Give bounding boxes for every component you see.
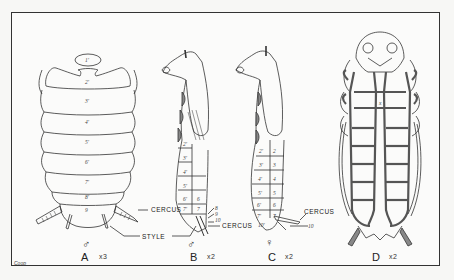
svg-text:1': 1' [85,57,90,63]
svg-text:10: 10 [215,217,221,223]
svg-text:6': 6' [85,159,90,165]
figure-letter-d: D [372,251,380,263]
label-cercus-b: CERCUS [222,222,252,229]
figure-d-drawing: x [339,32,421,246]
figure-scale-a: x3 [99,253,107,260]
figure-scale-d: x2 [389,253,397,260]
svg-text:5': 5' [258,190,263,196]
male-symbol-b: ♂ [187,238,195,250]
svg-text:6: 6 [197,196,200,202]
svg-text:6': 6' [183,196,188,202]
svg-text:x: x [378,100,382,106]
svg-text:3': 3' [258,162,264,168]
figure-letter-a: A [81,251,88,263]
svg-text:10': 10' [258,222,266,228]
svg-text:4: 4 [273,176,276,182]
figure-scale-c: x2 [285,253,293,260]
figure-scale-b: x2 [207,253,215,260]
figure-c-drawing: 2' 2 3' 3 4' 4 5' 5 6' 6 7' 7 10' 10 [236,46,314,230]
artist-signature: Coop [14,260,26,266]
insect-anatomy-drawings: 1' 2' 3' 4' 5' 6' 7' 8' 9 [0,0,454,280]
svg-text:3: 3 [272,162,276,168]
svg-text:10: 10 [308,223,314,229]
svg-text:4': 4' [183,169,188,175]
male-symbol-a: ♂ [82,238,90,250]
svg-text:5: 5 [273,190,276,196]
svg-text:3': 3' [182,155,188,161]
svg-text:9: 9 [85,207,88,213]
svg-text:3': 3' [84,98,90,104]
svg-text:7': 7' [85,179,90,185]
svg-text:4': 4' [85,119,90,125]
svg-text:2: 2 [273,148,276,154]
label-cercus-a: CERCUS [151,206,181,213]
svg-text:7': 7' [257,213,262,219]
svg-text:2': 2' [85,79,90,85]
label-style-a: STYLE [142,233,165,240]
svg-text:4': 4' [258,176,263,182]
svg-text:7: 7 [273,213,276,219]
svg-text:6': 6' [257,202,262,208]
svg-text:7': 7' [183,206,188,212]
svg-text:2': 2' [259,148,264,154]
svg-text:7: 7 [197,206,200,212]
svg-text:5': 5' [85,139,90,145]
label-cercus-c: CERCUS [304,208,334,215]
female-symbol-c: ♀ [265,236,273,248]
svg-text:5': 5' [183,183,188,189]
figure-letter-c: C [268,251,276,263]
svg-text:2': 2' [183,141,188,147]
svg-text:6: 6 [273,202,276,208]
figure-letter-b: B [190,251,197,263]
svg-text:8': 8' [85,194,90,200]
